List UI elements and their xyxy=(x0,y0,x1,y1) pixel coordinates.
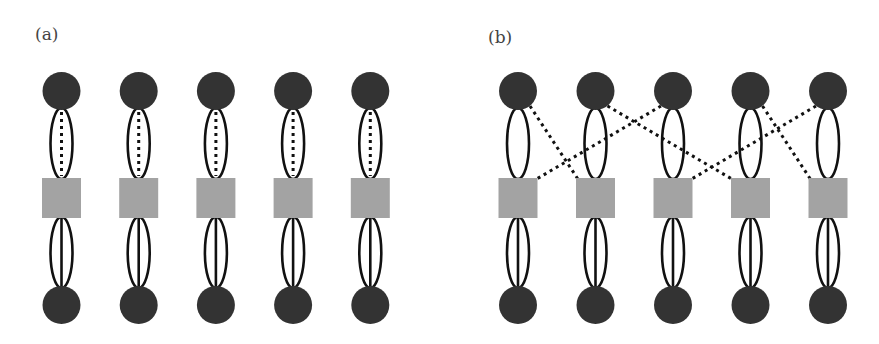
bottom-node xyxy=(732,286,770,324)
top-node xyxy=(120,72,158,110)
middle-square-node xyxy=(42,178,81,218)
bottom-node xyxy=(809,286,847,324)
diagram-canvas xyxy=(0,0,879,344)
middle-square-node xyxy=(809,178,848,218)
middle-square-node xyxy=(731,178,770,218)
top-ellipse-link xyxy=(817,108,839,179)
dotted-link xyxy=(530,106,579,180)
middle-square-node xyxy=(351,178,390,218)
bottom-node xyxy=(351,286,389,324)
bottom-node xyxy=(197,286,235,324)
middle-square-node xyxy=(576,178,615,218)
panel-a xyxy=(42,72,390,324)
dotted-link xyxy=(763,106,812,180)
top-node xyxy=(654,72,692,110)
bottom-node xyxy=(654,286,692,324)
top-node xyxy=(351,72,389,110)
middle-square-node xyxy=(119,178,158,218)
top-node xyxy=(43,72,81,110)
middle-square-node xyxy=(196,178,235,218)
top-ellipse-link xyxy=(662,108,684,179)
middle-square-node xyxy=(654,178,693,218)
bottom-node xyxy=(499,286,537,324)
top-node xyxy=(809,72,847,110)
top-ellipse-link xyxy=(507,108,529,179)
middle-square-node xyxy=(274,178,313,218)
panel-b xyxy=(499,72,848,324)
dotted-link xyxy=(608,106,734,180)
top-node xyxy=(577,72,615,110)
bottom-node xyxy=(577,286,615,324)
top-ellipse-link xyxy=(585,108,607,179)
dotted-link xyxy=(690,106,816,180)
bottom-node xyxy=(120,286,158,324)
middle-square-node xyxy=(499,178,538,218)
top-node xyxy=(274,72,312,110)
top-node xyxy=(197,72,235,110)
top-node xyxy=(499,72,537,110)
bottom-node xyxy=(274,286,312,324)
bottom-node xyxy=(43,286,81,324)
top-ellipse-link xyxy=(740,108,762,179)
top-node xyxy=(732,72,770,110)
